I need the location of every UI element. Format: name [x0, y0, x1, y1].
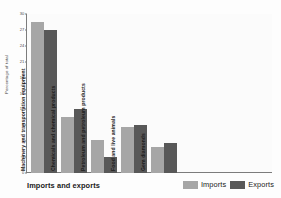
legend-item-exports[interactable]: Exports: [230, 180, 274, 189]
bar-imports[interactable]: [61, 117, 74, 173]
chart-legend: Imports Exports: [183, 180, 274, 189]
category-label: Machinery and transportation equipment: [20, 68, 26, 171]
bar-imports[interactable]: [91, 140, 104, 173]
category-label: Chemicals and chemical products: [50, 86, 56, 171]
category-label: Petroleum and petroleum products: [80, 83, 86, 171]
y-tick-mark: [25, 61, 27, 62]
legend-label-imports: Imports: [201, 180, 226, 189]
bar-chart: Percentage of total 302724211815129630 M…: [0, 0, 281, 198]
y-tick-mark: [25, 45, 27, 46]
bar-imports[interactable]: [151, 147, 164, 174]
legend-label-exports: Exports: [248, 180, 274, 189]
category-label: Gem diamonds: [140, 133, 146, 171]
y-tick-mark: [25, 29, 27, 30]
bar-imports[interactable]: [31, 22, 44, 173]
x-axis-title: Imports and exports: [27, 181, 100, 190]
y-tick-mark: [25, 173, 27, 174]
category-label: Food and live animals: [110, 116, 116, 171]
legend-swatch-exports: [230, 181, 245, 189]
legend-item-imports[interactable]: Imports: [183, 180, 226, 189]
plot-area: 302724211815129630 Machinery and transpo…: [27, 14, 272, 173]
bar-imports[interactable]: [121, 127, 134, 173]
bar-exports[interactable]: [164, 143, 177, 173]
y-axis-title: Percentage of total: [4, 55, 9, 94]
y-tick-mark: [25, 14, 27, 15]
bar-group: Gem diamonds: [151, 14, 177, 173]
legend-swatch-imports: [183, 181, 198, 189]
